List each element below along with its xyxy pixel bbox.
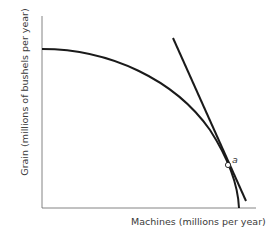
x-axis-label: Machines (millions per year) <box>131 216 266 227</box>
point-a-marker <box>225 162 230 167</box>
tangent-line <box>173 38 246 201</box>
y-axis-label: Grain (millions of bushels per year) <box>19 8 30 175</box>
ppf-chart <box>0 0 275 237</box>
point-a-label: a <box>232 154 238 165</box>
ppf-curve <box>42 49 239 208</box>
